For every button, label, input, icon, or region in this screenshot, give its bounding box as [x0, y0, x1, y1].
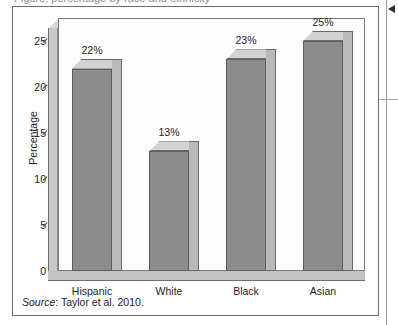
bar-value-label: 22%: [62, 44, 122, 56]
bar-black[interactable]: [226, 59, 266, 271]
caption-stub-text: Figure: percentage by race and ethnicity: [14, 0, 210, 4]
bar-value-label: 13%: [139, 126, 199, 138]
bar-value-label: 25%: [293, 16, 353, 28]
left-triangle-marker-icon: [388, 5, 395, 13]
plot-floor: [48, 271, 365, 281]
x-tick-label: Black: [208, 285, 284, 297]
bar-side-face: [343, 31, 353, 271]
bar-side-face: [112, 59, 122, 271]
source-label: Source: [22, 296, 55, 308]
bar-hispanic[interactable]: [72, 69, 112, 271]
bar-value-label: 23%: [216, 34, 276, 46]
x-tick-label: Asian: [285, 285, 361, 297]
bar-chart: Percentage 22%13%23%25% 0510152025 Hispa…: [12, 6, 379, 316]
source-citation: : Taylor et al. 2010.: [55, 296, 144, 308]
bar-white[interactable]: [149, 151, 189, 271]
bar-asian[interactable]: [303, 41, 343, 271]
page-margin-tick: [379, 99, 398, 100]
plot-wall-left-face: [48, 28, 58, 281]
source-note: Source: Taylor et al. 2010.: [22, 296, 144, 308]
bar-side-face: [189, 141, 199, 271]
bar-side-face: [266, 49, 276, 271]
page-margin-rule: [386, 0, 387, 325]
y-tick-label: 0: [24, 265, 46, 277]
caption-descender-stub: Figure: percentage by race and ethnicity: [14, 0, 374, 4]
